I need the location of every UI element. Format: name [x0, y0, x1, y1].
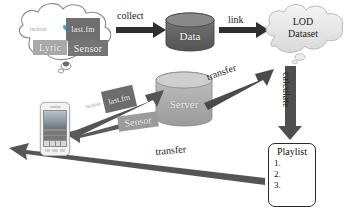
phone-earpiece [50, 106, 61, 108]
phone-app-icon-row [44, 141, 66, 146]
edge-link-arrow [219, 22, 269, 38]
lod-label-line1: LOD [272, 16, 334, 28]
data-store-label: Data [168, 30, 212, 42]
playlist-card: Playlist 1. 2. 3. [268, 143, 316, 207]
phone-app-icon [61, 141, 66, 146]
phone-hardware-buttons [45, 149, 65, 153]
lod-label-line2: Dataset [272, 28, 334, 40]
phone-app-icon [56, 141, 61, 146]
phone-button [60, 149, 65, 152]
edge-collect-label: collect [117, 10, 144, 21]
phone-photo-thumbnail [44, 111, 66, 129]
phone-button [45, 149, 50, 152]
source-sensor-box: Sensor [68, 40, 108, 56]
edge-collect-arrow [116, 22, 166, 38]
phone-app-icon [50, 141, 55, 146]
smartphone-device [40, 102, 70, 156]
edge-link-label: link [228, 14, 244, 25]
playlist-item: 3. [269, 180, 315, 191]
phone-screen [43, 110, 67, 147]
lod-cloud-label: LOD Dataset [272, 16, 334, 40]
source-lastfm-box: last.fm [66, 18, 100, 41]
playlist-item: 1. [269, 158, 315, 169]
edge-calculate-label: calculate [281, 72, 292, 108]
phone-app-icon [44, 141, 49, 146]
diagram-canvas: twitter 🐦 last.fm Lyric Sensor Data Serv… [0, 0, 346, 218]
source-lyric-box: Lyric [33, 40, 67, 55]
server-store-label: Server [156, 98, 212, 110]
phone-list-row [44, 131, 66, 135]
playlist-item: 2. [269, 169, 315, 180]
playlist-title: Playlist [269, 146, 315, 158]
phone-button [52, 149, 57, 152]
phone-list-row [44, 136, 66, 140]
